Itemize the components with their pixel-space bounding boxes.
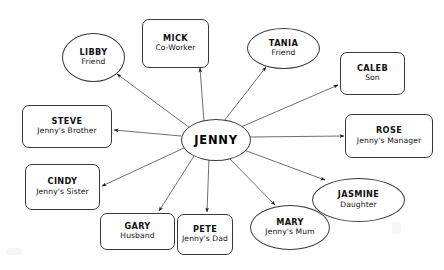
- node-caleb-name: CALEB: [357, 64, 388, 74]
- node-mary[interactable]: MARYJenny's Mum: [250, 205, 330, 250]
- edge-jenny-to-mary: [228, 157, 275, 205]
- node-libby[interactable]: LIBBYFriend: [62, 33, 125, 82]
- node-mick-role: Co-Worker: [155, 44, 195, 53]
- node-jenny-name: JENNY: [194, 133, 238, 147]
- node-jenny[interactable]: JENNY: [181, 119, 251, 161]
- edge-jenny-to-jasmine: [244, 150, 325, 180]
- node-jasmine[interactable]: JASMINEDaughter: [312, 178, 405, 222]
- edge-jenny-to-tania: [224, 67, 266, 121]
- node-libby-name: LIBBY: [80, 48, 108, 58]
- node-rose-role: Jenny's Manager: [357, 137, 421, 146]
- node-gary[interactable]: GARYHusband: [100, 213, 175, 250]
- node-jasmine-name: JASMINE: [338, 190, 379, 200]
- edge-jenny-to-caleb: [241, 85, 338, 127]
- node-mick[interactable]: MICKCo-Worker: [142, 19, 209, 68]
- scan-artifact-bottom-right: [392, 222, 401, 234]
- edge-jenny-to-cindy: [102, 148, 184, 186]
- node-pete[interactable]: PETEJenny's Dad: [177, 214, 233, 255]
- node-gary-name: GARY: [124, 222, 150, 232]
- node-libby-role: Friend: [82, 58, 106, 67]
- node-mary-role: Jenny's Mum: [265, 228, 314, 237]
- edge-jenny-to-libby: [117, 74, 190, 128]
- edge-jenny-to-pete: [207, 159, 209, 212]
- node-tania[interactable]: TANIAFriend: [247, 28, 320, 69]
- scan-artifact-bottom-left: [6, 248, 22, 255]
- node-rose[interactable]: ROSEJenny's Manager: [345, 114, 433, 158]
- node-steve-role: Jenny's Brother: [37, 127, 96, 136]
- node-steve-name: STEVE: [52, 117, 83, 127]
- node-steve[interactable]: STEVEJenny's Brother: [22, 105, 112, 148]
- node-cindy-name: CINDY: [48, 177, 78, 187]
- edge-jenny-to-gary: [159, 156, 194, 211]
- edge-jenny-to-rose: [249, 136, 344, 137]
- node-caleb-role: Son: [365, 74, 380, 83]
- node-caleb[interactable]: CALEBSon: [340, 52, 405, 95]
- node-rose-name: ROSE: [376, 126, 402, 136]
- node-gary-role: Husband: [120, 232, 154, 241]
- node-mary-name: MARY: [276, 218, 304, 228]
- edge-jenny-to-steve: [114, 130, 181, 136]
- node-jasmine-role: Daughter: [340, 201, 377, 210]
- node-cindy[interactable]: CINDYJenny's Sister: [25, 164, 100, 210]
- node-pete-role: Jenny's Dad: [182, 235, 228, 244]
- mind-map-canvas: JENNY LIBBYFriendMICKCo-WorkerTANIAFrien…: [0, 0, 444, 270]
- edge-jenny-to-mick: [200, 68, 204, 122]
- node-cindy-role: Jenny's Sister: [36, 188, 89, 197]
- node-mick-name: MICK: [163, 34, 188, 44]
- node-pete-name: PETE: [193, 225, 217, 235]
- node-tania-role: Friend: [272, 49, 296, 58]
- node-tania-name: TANIA: [269, 39, 298, 49]
